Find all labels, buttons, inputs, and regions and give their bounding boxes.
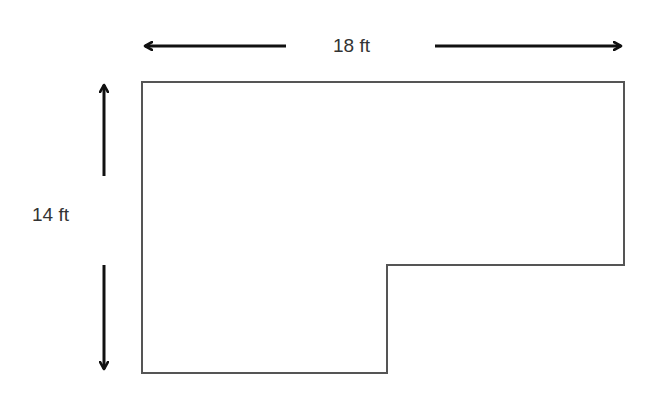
room-diagram — [0, 0, 658, 397]
height-dimension-label: 14 ft — [32, 205, 69, 224]
room-outline — [142, 82, 624, 373]
width-dimension-label: 18 ft — [333, 36, 370, 55]
